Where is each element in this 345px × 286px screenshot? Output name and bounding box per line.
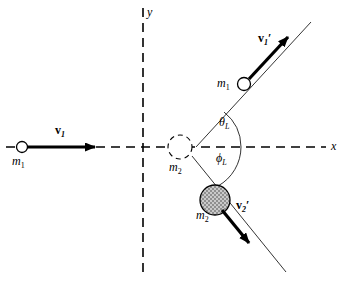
incoming-velocity-label: v1 (55, 124, 65, 139)
scattered-particle-circle (238, 78, 251, 91)
target-mass-symbol: m (169, 160, 178, 174)
recoil-mass-symbol: m (196, 208, 205, 222)
y-axis-label: y (147, 6, 152, 18)
x-axis-label: x (331, 140, 336, 152)
scattered-mass-symbol: m (217, 76, 226, 90)
recoil-particle-label: m2 (196, 209, 209, 224)
phi-subscript: L (222, 158, 226, 167)
theta-subscript: L (225, 122, 229, 131)
diagram-canvas (0, 0, 345, 286)
theta-angle-label: θL (219, 116, 229, 131)
scattered-particle-label: m1 (217, 77, 230, 92)
incoming-particle-circle (17, 142, 28, 153)
incoming-mass-symbol: m (12, 154, 21, 168)
scattered-particle-ray (196, 22, 311, 147)
v1-subscript: 1 (61, 130, 65, 139)
v1p-prime: ′ (268, 31, 271, 45)
target-particle-label: m2 (169, 161, 182, 176)
scattered-velocity-label: v1′ (258, 32, 271, 47)
target-mass-subscript: 2 (178, 167, 182, 176)
scattered-mass-subscript: 1 (226, 83, 230, 92)
v2p-prime: ′ (246, 198, 249, 212)
incoming-particle-label: m1 (12, 155, 25, 170)
target-particle-circle (168, 135, 192, 159)
scattering-diagram: y x m1 v1 m2 m1 v1′ m2 v2′ θL ϕL (0, 0, 345, 286)
phi-angle-label: ϕL (216, 152, 227, 167)
recoil-mass-subscript: 2 (205, 215, 209, 224)
recoil-velocity-arrow (222, 210, 249, 243)
incoming-mass-subscript: 1 (21, 161, 25, 170)
recoil-velocity-label: v2′ (236, 199, 249, 214)
